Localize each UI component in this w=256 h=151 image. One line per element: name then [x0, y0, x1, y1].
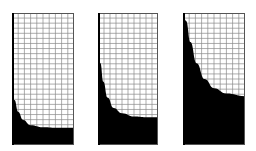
- grid-panel-1: [12, 13, 74, 145]
- grid-panel-2: [98, 13, 158, 145]
- grid-panel-3: [183, 13, 245, 145]
